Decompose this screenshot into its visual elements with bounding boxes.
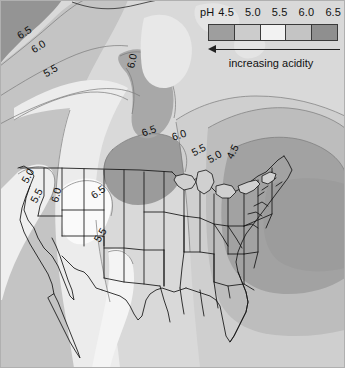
legend-tick-3: 6.0 <box>299 6 315 18</box>
legend-caption: increasing acidity <box>200 57 342 69</box>
legend-tick-2: 5.5 <box>272 6 288 18</box>
legend-swatch-3 <box>286 25 312 40</box>
legend-tick-1: 5.0 <box>245 6 261 18</box>
legend-header: pH 4.5 5.0 5.5 6.0 6.5 <box>200 6 342 22</box>
legend-swatch-1 <box>235 25 261 40</box>
legend-tick-4: 6.5 <box>325 6 341 18</box>
acidity-arrow <box>208 44 340 56</box>
legend-swatch-0 <box>209 25 235 40</box>
legend-ph-label: pH <box>200 6 214 18</box>
legend-swatch-2 <box>261 25 287 40</box>
ph-band-acidic-atlantic-tongue <box>264 178 345 271</box>
legend-swatch-4 <box>312 25 337 40</box>
legend-tick-0: 4.5 <box>218 6 234 18</box>
legend-tick-labels: 4.5 5.0 5.5 6.0 6.5 <box>218 6 342 18</box>
legend-color-bar <box>208 24 338 41</box>
arrow-line <box>215 49 340 50</box>
ph-legend: pH 4.5 5.0 5.5 6.0 6.5 increasing acidit… <box>200 6 342 68</box>
precipitation-ph-map: pH 4.5 5.0 5.5 6.0 6.5 increasing acidit… <box>0 0 345 368</box>
